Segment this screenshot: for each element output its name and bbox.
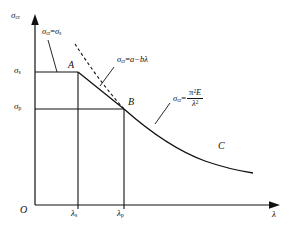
y-tick-sigma-s-subscript: s [18, 69, 20, 75]
y-axis-title-subscript: cr [15, 14, 19, 20]
euler-fraction-denominator: λ2 [190, 99, 200, 109]
annotation-euler-equation: σcr= π2E λ2 [173, 88, 203, 109]
euler-modulus-symbol: E [196, 87, 201, 97]
x-tick-lambda-s-subscript: s [75, 212, 77, 218]
leader-line-linear [100, 67, 114, 86]
euler-buckling-diagram: σcr λ O σs σp λs λp A B C σcr=σs σcr=a−b… [0, 0, 289, 235]
curve-segment-euler-bc [124, 109, 253, 173]
yield-rhs-subscript: s [59, 30, 61, 36]
annotation-yield-equation: σcr=σs [42, 27, 61, 37]
y-axis-title: σcr [11, 11, 20, 21]
annotation-linear-equation: σcr=a−bλ [117, 55, 148, 65]
x-axis-title: λ [272, 210, 276, 219]
euler-fraction: π2E λ2 [187, 88, 203, 109]
leader-line-euler [155, 103, 170, 124]
origin-label: O [20, 205, 27, 215]
point-label-c: C [218, 141, 225, 151]
point-label-a: A [68, 60, 74, 70]
y-tick-label-sigma-p: σp [14, 102, 21, 112]
euler-fraction-numerator: π2E [187, 88, 203, 99]
y-tick-label-sigma-s: σs [14, 66, 21, 76]
y-tick-sigma-p-subscript: p [18, 105, 21, 111]
x-tick-label-lambda-p: λp [117, 209, 124, 219]
euler-equals-sign: = [181, 93, 186, 103]
x-tick-label-lambda-s: λs [71, 209, 77, 219]
point-label-b: B [128, 97, 134, 107]
leader-line-yield [48, 40, 57, 72]
curve-segment-linear-ab [78, 72, 124, 109]
euler-lambda-exponent: 2 [196, 99, 199, 105]
linear-rhs-expression: a−bλ [130, 54, 148, 64]
x-tick-lambda-p-subscript: p [121, 212, 124, 218]
